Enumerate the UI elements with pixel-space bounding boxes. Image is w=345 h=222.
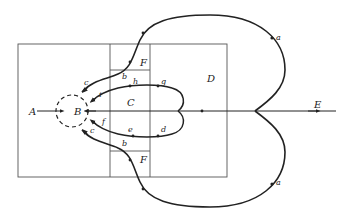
point-d-dot <box>157 135 160 138</box>
inner-loop-bottom <box>92 111 183 137</box>
outer-top-dot-1 <box>142 32 145 35</box>
label-point-e: e <box>128 125 133 134</box>
point-g-dot <box>157 85 160 88</box>
label-point-a-top: a <box>276 33 281 42</box>
label-point-b-top: b <box>122 72 127 81</box>
label-point-d: d <box>161 125 166 134</box>
outer-loop-bottom <box>82 111 285 207</box>
label-f-bottom-region: F <box>139 154 148 165</box>
label-point-f: f <box>101 117 107 126</box>
label-point-c-top: c <box>84 78 89 87</box>
axis-dot <box>201 110 204 113</box>
point-e-dot <box>132 135 135 138</box>
label-point-h: h <box>133 77 138 86</box>
outer-bottom-dot-2 <box>129 159 132 162</box>
label-a-region: A <box>28 106 36 117</box>
outer-bottom-dot-1 <box>142 188 145 191</box>
label-d-region: D <box>206 73 215 84</box>
label-c-region: C <box>127 97 135 108</box>
flow-diagram: A B C D E F F a a b b c c d e f g h i <box>0 0 345 222</box>
point-h-dot <box>129 85 132 88</box>
label-b-region: B <box>73 106 81 117</box>
label-point-c-bottom: c <box>90 126 95 135</box>
label-point-g: g <box>161 77 166 86</box>
outer-loop-top <box>82 15 285 111</box>
label-f-top-region: F <box>139 57 148 68</box>
label-point-a-bottom: a <box>276 178 281 187</box>
outer-top-dot-2 <box>129 61 132 64</box>
point-a-bottom-dot <box>270 182 273 185</box>
label-point-b-bottom: b <box>122 139 127 148</box>
label-point-i: i <box>99 90 102 99</box>
label-e-region: E <box>313 99 322 110</box>
inner-loop-top <box>92 85 183 111</box>
point-a-top-dot <box>270 36 273 39</box>
